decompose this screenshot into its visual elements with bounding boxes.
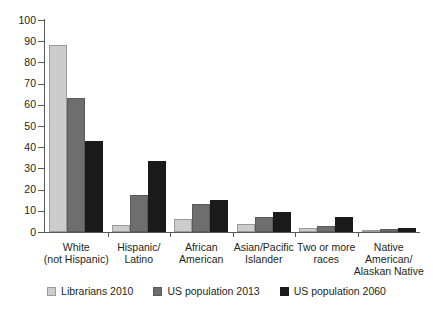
bar (85, 141, 103, 232)
legend-item[interactable]: US population 2013 (153, 286, 259, 297)
bar (317, 226, 335, 232)
bar (130, 195, 148, 232)
y-axis-tick-label: 30 (2, 163, 36, 174)
plot-area (45, 20, 420, 232)
bar (299, 228, 317, 232)
legend-label: Librarians 2010 (61, 286, 133, 297)
bar-group (108, 20, 171, 232)
y-axis-tick-label-wrap: 50 (0, 121, 36, 132)
y-axis-tick-label-wrap: 20 (0, 184, 36, 195)
bar-group (233, 20, 296, 232)
bar (237, 224, 255, 232)
bar (398, 228, 416, 232)
legend-item[interactable]: US population 2060 (280, 286, 386, 297)
bar (273, 212, 291, 232)
x-axis-category-label: Native American/ Alaskan Native (352, 241, 427, 278)
y-axis-tick-label-wrap: 40 (0, 142, 36, 153)
bar (255, 217, 273, 232)
bar (112, 225, 130, 232)
y-axis-tick-label-wrap: 30 (0, 163, 36, 174)
y-axis-tick-label: 40 (2, 142, 36, 153)
legend-swatch-icon (153, 287, 162, 296)
bar-group (358, 20, 421, 232)
y-axis-tick (38, 190, 44, 191)
y-axis-tick-label: 80 (2, 57, 36, 68)
y-axis-tick-label: 20 (2, 184, 36, 195)
chart-legend: Librarians 2010US population 2013US popu… (0, 286, 433, 297)
bar (148, 161, 166, 232)
y-axis-tick-label: 10 (2, 205, 36, 216)
y-axis-tick-label: 70 (2, 78, 36, 89)
bar (335, 217, 353, 232)
y-axis-tick (38, 232, 44, 233)
bar (192, 204, 210, 232)
legend-swatch-icon (47, 287, 56, 296)
y-axis-tick (38, 211, 44, 212)
y-axis-tick-label-wrap: 80 (0, 57, 36, 68)
y-axis-tick (38, 84, 44, 85)
y-axis-tick-label: 60 (2, 99, 36, 110)
bar-group (295, 20, 358, 232)
y-axis-tick (38, 41, 44, 42)
legend-item[interactable]: Librarians 2010 (47, 286, 133, 297)
y-axis-tick-label-wrap: 60 (0, 99, 36, 110)
y-axis-tick (38, 20, 44, 21)
y-axis-tick-label-wrap: 100 (0, 15, 36, 26)
bar (49, 45, 67, 232)
y-axis-tick-label-wrap: 10 (0, 205, 36, 216)
y-axis-tick-label-wrap: 70 (0, 78, 36, 89)
x-axis-separator (170, 232, 171, 237)
x-axis-separator (295, 232, 296, 237)
y-axis-tick-label: 50 (2, 121, 36, 132)
y-axis-tick-label: 90 (2, 36, 36, 47)
x-axis-separator (358, 232, 359, 237)
y-axis-tick-label-wrap: 90 (0, 36, 36, 47)
y-axis-tick-label-wrap: 0 (0, 227, 36, 238)
bar-group (45, 20, 108, 232)
y-axis-tick (38, 147, 44, 148)
y-axis-tick (38, 105, 44, 106)
y-axis-tick-label: 100 (2, 15, 36, 26)
legend-swatch-icon (280, 287, 289, 296)
bar-chart: 0102030405060708090100 White (not Hispan… (0, 0, 433, 309)
x-axis-separator (108, 232, 109, 237)
y-axis-tick-label: 0 (2, 227, 36, 238)
bar (380, 229, 398, 232)
bar-group (170, 20, 233, 232)
legend-label: US population 2013 (167, 286, 259, 297)
y-axis-tick (38, 126, 44, 127)
bar (67, 98, 85, 232)
bar (174, 219, 192, 232)
bar (362, 230, 380, 232)
y-axis-tick (38, 168, 44, 169)
y-axis-tick (38, 62, 44, 63)
legend-label: US population 2060 (294, 286, 386, 297)
bar (210, 200, 228, 232)
x-axis-separator (233, 232, 234, 237)
